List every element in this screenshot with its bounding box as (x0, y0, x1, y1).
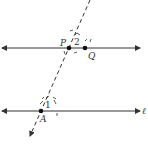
point-p (67, 46, 72, 51)
label-q: Q (88, 51, 96, 61)
label-a: A (39, 114, 47, 124)
label-angle-2: 2 (74, 37, 80, 47)
transversal-dashed-line (30, 0, 90, 136)
label-line-l: ℓ (142, 106, 146, 116)
diagram-svg: P Q A 2 1 ℓ (0, 0, 148, 154)
label-angle-1: 1 (45, 100, 51, 110)
label-p: P (59, 38, 67, 48)
point-a (39, 109, 44, 114)
point-q (83, 46, 88, 51)
parallel-line-construction-diagram: P Q A 2 1 ℓ (0, 0, 148, 154)
